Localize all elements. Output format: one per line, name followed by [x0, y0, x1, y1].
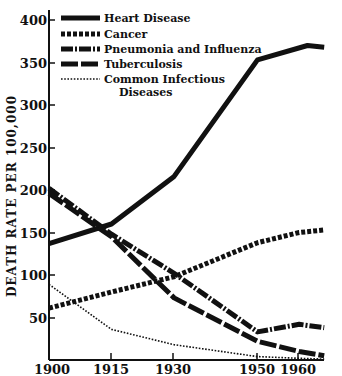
svg-text:Tuberculosis: Tuberculosis: [104, 58, 182, 71]
legend: Heart Disease Cancer Pneumonia and Influ…: [61, 12, 262, 99]
legend-item-tuberculosis: Tuberculosis: [61, 58, 182, 71]
svg-text:Cancer: Cancer: [104, 28, 148, 41]
legend-item-pneumonia: Pneumonia and Influenza: [61, 43, 262, 56]
svg-text:Heart Disease: Heart Disease: [104, 12, 190, 25]
svg-text:Pneumonia and Influenza: Pneumonia and Influenza: [104, 43, 262, 56]
x-tick-1930: 1930: [155, 362, 191, 376]
legend-item-common-infectious: Common Infectious Diseases: [61, 73, 225, 99]
series-line-pneumonia-and-influenza: [49, 188, 324, 332]
y-tick-labels: 400 350 300 250 200 150 100 50: [20, 13, 47, 326]
y-tick-350: 350: [20, 56, 47, 71]
svg-text:Diseases: Diseases: [119, 86, 172, 99]
y-tick-150: 150: [20, 226, 47, 241]
y-tick-250: 250: [20, 141, 47, 156]
x-tick-1915: 1915: [93, 362, 129, 376]
x-tick-1950: 1950: [239, 362, 275, 376]
line-chart: 400 350 300 250 200 150 100 50 1900 1915…: [0, 0, 342, 376]
y-tick-100: 100: [20, 268, 47, 283]
x-tick-1900: 1900: [34, 362, 70, 376]
series-layer: [49, 46, 324, 360]
y-tick-200: 200: [20, 183, 47, 198]
y-tick-300: 300: [20, 98, 47, 113]
x-tick-labels: 1900 1915 1930 1950 1960: [34, 362, 316, 376]
legend-item-heart-disease: Heart Disease: [61, 12, 190, 25]
y-tick-400: 400: [20, 13, 47, 28]
series-line-cancer: [49, 230, 324, 308]
legend-item-cancer: Cancer: [61, 28, 148, 41]
y-axis-label: DEATH RATE PER 100,000: [5, 95, 19, 297]
x-tick-1960: 1960: [280, 362, 316, 376]
y-tick-50: 50: [29, 311, 47, 326]
svg-text:Common Infectious: Common Infectious: [104, 73, 225, 86]
